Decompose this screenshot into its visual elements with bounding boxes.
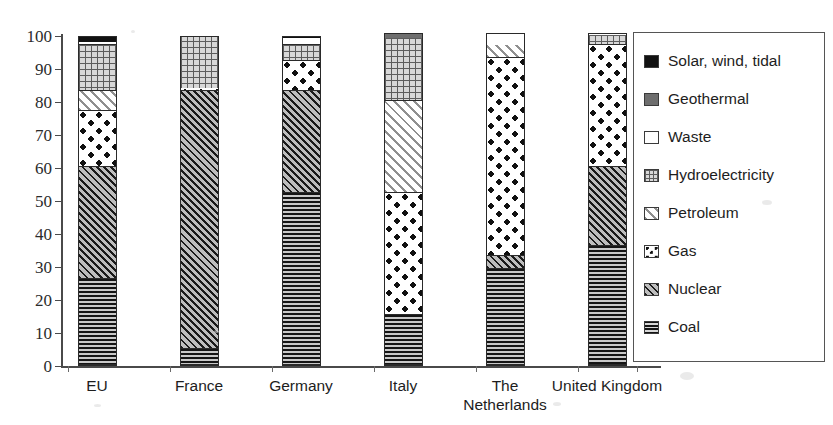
bar-segment-hydroelectricity bbox=[181, 36, 218, 88]
bar-segment-petroleum bbox=[79, 91, 116, 111]
bar-segment-nuclear bbox=[79, 167, 116, 279]
bar-segment-solar-wind-tidal bbox=[283, 36, 320, 38]
y-axis-tick-label: 40 bbox=[8, 226, 52, 243]
y-axis-tick bbox=[55, 36, 62, 37]
x-axis-label-united-kingdom: United Kingdom bbox=[547, 376, 667, 395]
scan-speckle bbox=[553, 402, 561, 406]
legend-item-geothermal[interactable]: Geothermal bbox=[644, 80, 824, 118]
legend-item-petroleum[interactable]: Petroleum bbox=[644, 194, 824, 232]
y-axis-tick-label: 90 bbox=[8, 61, 52, 78]
bar-the-netherlands bbox=[486, 33, 525, 366]
x-axis-tick bbox=[637, 366, 638, 372]
bar-segment-hydroelectricity bbox=[283, 45, 320, 62]
bar-segment-waste bbox=[79, 42, 116, 45]
bar-segment-geothermal bbox=[385, 33, 422, 39]
legend-swatch-icon bbox=[644, 207, 659, 220]
bar-segment-nuclear bbox=[181, 91, 218, 348]
bar-segment-coal bbox=[589, 246, 626, 365]
legend-item-label: Geothermal bbox=[668, 90, 749, 108]
y-axis-tick-label: 30 bbox=[8, 259, 52, 276]
legend-swatch-icon bbox=[644, 55, 659, 68]
legend-item-label: Gas bbox=[668, 242, 696, 260]
bar-segment-petroleum bbox=[385, 101, 422, 193]
legend-swatch-icon bbox=[644, 245, 659, 258]
bar-segment-petroleum bbox=[487, 45, 524, 58]
bar-segment-gas bbox=[385, 193, 422, 315]
x-axis-tick bbox=[68, 366, 69, 372]
y-axis-tick bbox=[55, 69, 62, 70]
bar-italy bbox=[384, 33, 423, 366]
y-axis-labels: 1009080706050403020100 bbox=[0, 0, 58, 425]
legend-swatch-icon bbox=[644, 93, 659, 106]
bar-segment-waste bbox=[589, 33, 626, 35]
bar-segment-hydroelectricity bbox=[385, 38, 422, 101]
y-axis-tick-label: 0 bbox=[8, 358, 52, 375]
y-axis-tick bbox=[55, 201, 62, 202]
bar-france bbox=[180, 36, 219, 366]
bar-segment-coal bbox=[79, 279, 116, 365]
legend-item-label: Coal bbox=[668, 318, 700, 336]
x-axis-tick bbox=[374, 366, 375, 372]
legend-item-label: Nuclear bbox=[668, 280, 721, 298]
chart-legend: Solar, wind, tidalGeothermalWasteHydroel… bbox=[633, 32, 825, 362]
bar-segment-gas bbox=[487, 58, 524, 256]
bar-segment-nuclear bbox=[487, 256, 524, 269]
bar-segment-coal bbox=[385, 315, 422, 365]
y-axis-tick-label: 70 bbox=[8, 127, 52, 144]
y-axis-tick bbox=[55, 300, 62, 301]
y-axis-tick bbox=[55, 234, 62, 235]
bar-segment-coal bbox=[283, 193, 320, 365]
bar-segment-solar-wind-tidal bbox=[79, 36, 116, 42]
y-axis-tick bbox=[55, 102, 62, 103]
y-axis-tick bbox=[55, 333, 62, 334]
legend-swatch-icon bbox=[644, 321, 659, 334]
bar-segment-hydroelectricity bbox=[79, 45, 116, 91]
bar-eu bbox=[78, 36, 117, 366]
y-axis-tick bbox=[55, 267, 62, 268]
legend-item-label: Petroleum bbox=[668, 204, 739, 222]
bar-segment-nuclear bbox=[283, 91, 320, 193]
bar-segment-gas bbox=[181, 88, 218, 91]
legend-item-label: Solar, wind, tidal bbox=[668, 52, 781, 70]
scan-speckle bbox=[214, 330, 219, 333]
y-axis-tick bbox=[55, 168, 62, 169]
y-axis-tick-label: 80 bbox=[8, 94, 52, 111]
legend-item-nuclear[interactable]: Nuclear bbox=[644, 270, 824, 308]
stacked-bar-chart: 1009080706050403020100 EUFranceGermanyIt… bbox=[0, 0, 833, 425]
legend-swatch-icon bbox=[644, 283, 659, 296]
legend-item-label: Waste bbox=[668, 128, 711, 146]
bar-segment-waste bbox=[487, 33, 524, 45]
y-axis-tick-label: 20 bbox=[8, 292, 52, 309]
bar-united-kingdom bbox=[588, 33, 627, 366]
x-axis-tick bbox=[476, 366, 477, 372]
legend-swatch-icon bbox=[644, 169, 659, 182]
scan-speckle bbox=[131, 30, 135, 33]
y-axis-tick-label: 100 bbox=[8, 28, 52, 45]
bar-segment-gas bbox=[283, 61, 320, 91]
legend-swatch-icon bbox=[644, 131, 659, 144]
legend-item-waste[interactable]: Waste bbox=[644, 118, 824, 156]
y-axis-tick-label: 50 bbox=[8, 193, 52, 210]
scan-speckle bbox=[762, 200, 772, 205]
x-axis-line bbox=[61, 366, 661, 368]
y-axis-tick-label: 60 bbox=[8, 160, 52, 177]
bar-segment-coal bbox=[487, 269, 524, 365]
plot-area bbox=[62, 36, 660, 366]
legend-item-hydroelectricity[interactable]: Hydroelectricity bbox=[644, 156, 824, 194]
bar-segment-hydroelectricity bbox=[589, 35, 626, 45]
bar-segment-coal bbox=[181, 349, 218, 366]
bar-segment-gas bbox=[589, 45, 626, 167]
bar-segment-waste bbox=[283, 38, 320, 45]
bar-segment-nuclear bbox=[589, 167, 626, 246]
y-axis-tick-label: 10 bbox=[8, 325, 52, 342]
x-axis-tick bbox=[578, 366, 579, 372]
legend-item-label: Hydroelectricity bbox=[668, 166, 774, 184]
legend-item-solar-wind-tidal[interactable]: Solar, wind, tidal bbox=[644, 42, 824, 80]
legend-item-gas[interactable]: Gas bbox=[644, 232, 824, 270]
x-axis-tick bbox=[170, 366, 171, 372]
scan-speckle bbox=[94, 404, 101, 407]
bar-segment-gas bbox=[79, 111, 116, 167]
x-axis-tick bbox=[272, 366, 273, 372]
legend-item-coal[interactable]: Coal bbox=[644, 308, 824, 346]
y-axis-tick bbox=[55, 366, 62, 367]
